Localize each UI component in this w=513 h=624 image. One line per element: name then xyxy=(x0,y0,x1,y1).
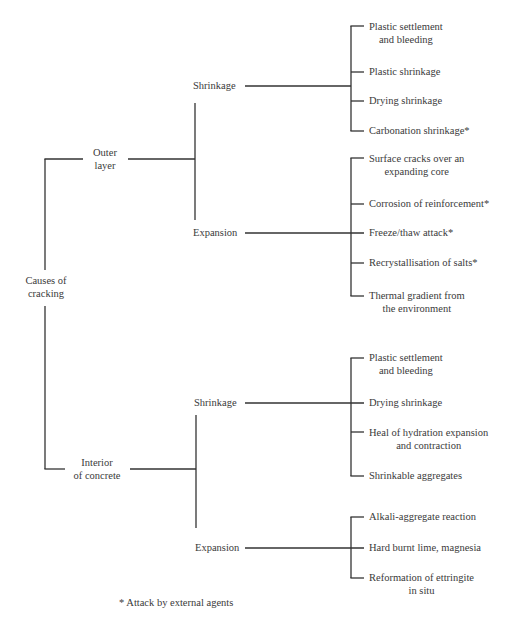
root-label-line2: cracking xyxy=(25,287,66,300)
leaf-line2: expanding core xyxy=(369,165,464,178)
interior-expansion-node: Expansion xyxy=(195,541,239,554)
leaf-line1: Reformation of ettringite xyxy=(369,571,474,584)
root-label-line1: Causes of xyxy=(25,274,66,287)
outer-layer-label-line2: layer xyxy=(93,159,117,172)
leaf-line1: Plastic settlement xyxy=(369,20,443,33)
leaf-node: Drying shrinkage xyxy=(369,94,442,107)
interior-shrinkage-node: Shrinkage xyxy=(194,396,237,409)
interior-node: Interior of concrete xyxy=(74,456,121,482)
leaf-node: Reformation of ettringite in situ xyxy=(369,571,474,597)
leaf-line2: and bleeding xyxy=(369,364,443,377)
interior-label-line1: Interior xyxy=(74,456,121,469)
leaf-line2: in situ xyxy=(369,584,474,597)
leaf-node: Shrinkable aggregates xyxy=(369,469,462,482)
outer-expansion-node: Expansion xyxy=(193,226,237,239)
outer-layer-node: Outer layer xyxy=(93,146,117,172)
leaf-node: Freeze/thaw attack* xyxy=(369,226,453,239)
leaf-node: Plastic settlement and bleeding xyxy=(369,20,443,46)
leaf-line2: and bleeding xyxy=(369,33,443,46)
outer-shrinkage-node: Shrinkage xyxy=(193,79,236,92)
leaf-node: Plastic shrinkage xyxy=(369,65,440,78)
outer-layer-label-line1: Outer xyxy=(93,146,117,159)
leaf-node: Recrystallisation of salts* xyxy=(369,256,477,269)
leaf-node: Surface cracks over an expanding core xyxy=(369,152,464,178)
leaf-node: Thermal gradient from the environment xyxy=(369,289,465,315)
root-node: Causes of cracking xyxy=(25,274,66,300)
leaf-line1: Thermal gradient from xyxy=(369,289,465,302)
leaf-node: Hard burnt lime, magnesia xyxy=(369,541,481,554)
leaf-line1: Heal of hydration expansion xyxy=(369,426,488,439)
leaf-node: Plastic settlement and bleeding xyxy=(369,351,443,377)
leaf-line2: the environment xyxy=(369,302,465,315)
leaf-line2: and contraction xyxy=(369,439,488,452)
leaf-node: Drying shrinkage xyxy=(369,396,442,409)
leaf-line1: Surface cracks over an xyxy=(369,152,464,165)
footnote: * Attack by external agents xyxy=(119,596,233,609)
leaf-node: Heal of hydration expansion and contract… xyxy=(369,426,488,452)
leaf-node: Alkali-aggregate reaction xyxy=(369,510,476,523)
leaf-node: Corrosion of reinforcement* xyxy=(369,197,489,210)
interior-label-line2: of concrete xyxy=(74,469,121,482)
leaf-line1: Plastic settlement xyxy=(369,351,443,364)
leaf-node: Carbonation shrinkage* xyxy=(369,124,470,137)
